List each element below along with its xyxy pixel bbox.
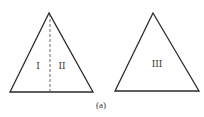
left-triangle-outline [10,13,93,92]
figure-caption: (a) [96,100,106,110]
right-triangle-outline [115,13,199,91]
region-label-3: III [152,59,163,69]
region-label-1: I [36,61,40,71]
left-triangle: I II [10,13,93,92]
right-triangle: III [115,13,199,91]
diagram-figure: I II III (a) [0,0,204,117]
region-label-2: II [58,61,66,71]
